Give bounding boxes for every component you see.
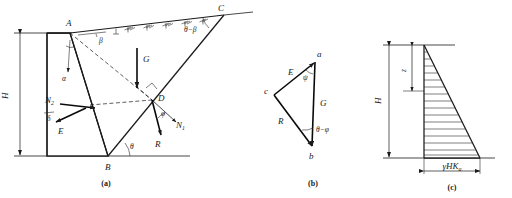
depth-label-z: z <box>399 69 408 73</box>
dashed-line-AD <box>70 33 152 100</box>
vertex-label-c: c <box>264 86 268 96</box>
dimension-label-H: H <box>0 92 10 100</box>
force-label-N1: N1 <box>175 120 185 131</box>
engineering-figure: H <box>0 0 512 198</box>
panel-b: ψ θ−φ E G R a b c (b) <box>264 49 329 188</box>
right-angle-mark-D <box>146 83 157 89</box>
angle-arc-theta-beta <box>203 18 209 28</box>
angle-label-theta: θ <box>130 142 134 151</box>
angle-leader-delta <box>44 112 54 113</box>
force-label-G-triangle: G <box>320 98 327 108</box>
triangle-side-G <box>312 62 315 146</box>
pressure-distribution-line <box>424 45 480 158</box>
dashed-line-upper-D <box>136 86 152 100</box>
angle-leader-alpha <box>68 40 70 72</box>
force-vector-E <box>56 108 86 122</box>
angle-label-theta-minus-phi: θ−φ <box>316 125 329 134</box>
force-label-R: R <box>154 139 161 149</box>
panel-c: H z <box>373 45 495 192</box>
angle-label-psi: ψ <box>303 73 308 82</box>
point-label-E: E <box>57 126 64 136</box>
triangle-side-E <box>274 63 314 95</box>
vertex-label-a: a <box>317 49 322 59</box>
force-label-G: G <box>143 54 150 64</box>
angle-arc-alpha <box>66 46 74 48</box>
force-label-R-triangle: R <box>277 116 284 126</box>
dashed-line-ED <box>90 100 152 105</box>
force-vector-R <box>152 100 161 135</box>
point-label-A: A <box>65 18 72 28</box>
angle-label-delta: δ <box>47 114 51 123</box>
retaining-wall-outline <box>47 33 108 156</box>
figure-root: H <box>0 0 512 198</box>
point-label-B: B <box>105 162 111 172</box>
angle-arc-theta-minus-phi <box>302 128 313 130</box>
caption-a: (a) <box>101 179 111 188</box>
wall-back-face <box>70 33 108 156</box>
caption-c: (c) <box>448 183 457 192</box>
force-vector-N2 <box>60 104 95 108</box>
vertex-label-b: b <box>309 151 314 161</box>
angle-label-theta-minus-beta: θ−β <box>184 25 197 34</box>
angle-leader-beta <box>78 32 106 35</box>
force-label-N2: N2 <box>44 95 54 106</box>
point-label-C: C <box>218 3 225 13</box>
caption-b: (b) <box>308 179 318 188</box>
base-pressure-label: γHKa <box>442 161 461 172</box>
failure-plane-BC <box>108 15 224 156</box>
angle-arc-beta <box>96 34 97 38</box>
angle-label-alpha: α <box>62 74 67 83</box>
force-label-E-triangle: E <box>287 67 294 77</box>
angle-label-beta: β <box>98 36 103 45</box>
surface-extension <box>224 12 253 15</box>
dimension-label-H-c: H <box>373 97 383 105</box>
panel-a: H <box>0 3 253 188</box>
point-label-D: D <box>157 93 165 103</box>
angle-label-phi: φ <box>161 109 165 118</box>
